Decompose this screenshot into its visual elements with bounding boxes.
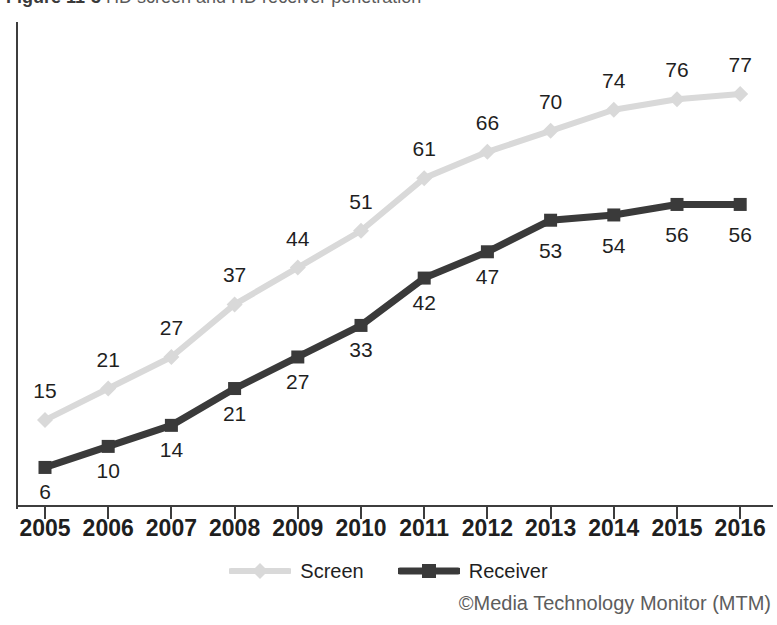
x-axis-label: 2013 <box>525 515 576 542</box>
series-line <box>45 94 740 420</box>
diamond-marker-icon <box>479 144 495 160</box>
data-label: 77 <box>729 53 752 77</box>
x-axis-label: 2015 <box>651 515 702 542</box>
data-label: 47 <box>476 265 499 289</box>
square-marker-icon <box>398 561 460 581</box>
square-marker-icon <box>355 319 368 332</box>
data-label: 61 <box>413 137 436 161</box>
legend-label: Screen <box>300 560 363 583</box>
data-label: 53 <box>539 239 562 263</box>
data-label: 21 <box>97 348 120 372</box>
x-axis-label: 2008 <box>209 515 260 542</box>
x-axis-label: 2012 <box>462 515 513 542</box>
diamond-marker-icon <box>669 91 685 107</box>
square-marker-icon <box>165 419 178 432</box>
data-label: 33 <box>349 338 372 362</box>
data-label: 76 <box>665 58 688 82</box>
legend-item-screen[interactable]: Screen <box>229 560 363 583</box>
figure-number: Figure 11-3 <box>6 0 101 7</box>
x-axis-labels: 2005200620072008200920102011201220132014… <box>0 515 777 547</box>
data-label: 44 <box>286 227 309 251</box>
chart-legend: ScreenReceiver <box>0 556 777 586</box>
square-marker-icon <box>39 461 52 474</box>
x-axis-label: 2014 <box>588 515 639 542</box>
data-label: 14 <box>160 438 183 462</box>
chart-plot-area: 1521273744516166707476776101421273342475… <box>0 18 777 510</box>
data-label: 54 <box>602 234 625 258</box>
square-marker-icon <box>671 198 684 211</box>
diamond-marker-icon <box>543 123 559 139</box>
data-label: 56 <box>729 223 752 247</box>
square-marker-icon <box>102 440 115 453</box>
figure-caption: HD screen and HD receiver penetration <box>106 0 421 7</box>
square-marker-icon <box>291 350 304 363</box>
square-marker-icon <box>544 214 557 227</box>
diamond-marker-icon <box>606 102 622 118</box>
attribution-text: ©Media Technology Monitor (MTM) <box>459 592 771 615</box>
series-line <box>45 204 740 467</box>
x-axis-label: 2010 <box>335 515 386 542</box>
x-axis-label: 2007 <box>146 515 197 542</box>
x-axis-label: 2009 <box>272 515 323 542</box>
figure-title: Figure 11-3 HD screen and HD receiver pe… <box>6 0 421 7</box>
legend-item-receiver[interactable]: Receiver <box>398 560 548 583</box>
square-marker-icon <box>734 198 747 211</box>
data-label: 6 <box>39 480 51 504</box>
data-label: 42 <box>413 291 436 315</box>
legend-label: Receiver <box>469 560 548 583</box>
data-label: 37 <box>223 263 246 287</box>
series-lines <box>0 18 777 510</box>
x-axis-label: 2011 <box>399 515 449 542</box>
data-label: 51 <box>349 190 372 214</box>
square-marker-icon <box>418 272 431 285</box>
diamond-marker-icon <box>732 86 748 102</box>
data-label: 56 <box>665 223 688 247</box>
series-screen <box>37 86 748 428</box>
diamond-marker-icon <box>229 561 291 581</box>
data-label: 15 <box>33 379 56 403</box>
data-label: 10 <box>97 459 120 483</box>
x-axis-label: 2016 <box>715 515 766 542</box>
square-marker-icon <box>607 208 620 221</box>
data-label: 21 <box>223 402 246 426</box>
data-label: 74 <box>602 69 625 93</box>
series-receiver <box>39 198 747 474</box>
data-label: 27 <box>160 316 183 340</box>
data-label: 66 <box>476 111 499 135</box>
data-label: 27 <box>286 370 309 394</box>
data-label: 70 <box>539 90 562 114</box>
square-marker-icon <box>481 245 494 258</box>
x-axis-label: 2006 <box>83 515 134 542</box>
square-marker-icon <box>228 382 241 395</box>
x-axis-label: 2005 <box>19 515 70 542</box>
